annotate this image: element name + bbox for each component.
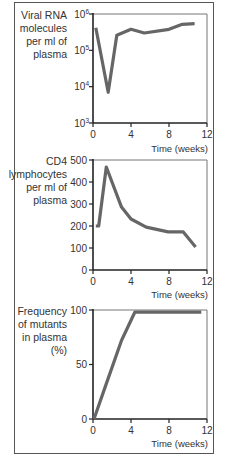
y-tick-label: 106 <box>74 8 89 20</box>
y-tick-label: 100 <box>70 305 87 316</box>
y-tick-label: 104 <box>74 80 89 92</box>
x-tick-label: 0 <box>90 425 96 436</box>
y-axis-label: per ml of <box>26 181 67 193</box>
x-tick-label: 4 <box>128 129 134 140</box>
x-tick-label: 8 <box>166 276 172 287</box>
x-tick-label: 4 <box>128 276 134 287</box>
y-axis-label: in plasma <box>22 331 67 343</box>
y-axis-label: plasma <box>33 48 67 60</box>
y-axis-label: (%) <box>51 344 67 356</box>
x-tick-label: 0 <box>90 276 96 287</box>
x-tick-label: 8 <box>166 129 172 140</box>
chart-panel-2: 010020030040050004812Time (weeks)CD4lymp… <box>9 155 213 301</box>
y-tick-label: 103 <box>74 117 89 129</box>
y-tick-label: 100 <box>70 243 87 254</box>
x-tick-label: 4 <box>128 425 134 436</box>
y-tick-label: 105 <box>74 44 89 56</box>
x-axis-label: Time (weeks) <box>151 289 208 300</box>
x-tick-label: 0 <box>90 129 96 140</box>
x-axis-label: Time (weeks) <box>151 143 208 154</box>
y-axis-label: molecules <box>20 22 67 34</box>
data-line <box>96 167 196 247</box>
y-axis-label: Frequency <box>17 305 67 317</box>
y-tick-label: 0 <box>81 414 87 425</box>
y-axis-label: Viral RNA <box>21 9 67 21</box>
y-tick-label: 50 <box>76 359 88 370</box>
y-tick-label: 0 <box>81 265 87 276</box>
y-axis-label: plasma <box>33 194 67 206</box>
x-tick-label: 12 <box>201 425 213 436</box>
data-line <box>94 312 201 419</box>
y-axis-label: lymphocytes <box>9 168 67 180</box>
y-tick-label: 400 <box>70 177 87 188</box>
x-axis-label: Time (weeks) <box>151 438 208 449</box>
y-tick-label: 200 <box>70 221 87 232</box>
y-tick-label: 500 <box>70 155 87 166</box>
y-tick-label: 300 <box>70 199 87 210</box>
x-tick-label: 12 <box>201 276 213 287</box>
chart-panel-1: 10310410510604812Time (weeks)Viral RNAmo… <box>20 8 213 155</box>
x-tick-label: 12 <box>201 129 213 140</box>
chart-panel-3: 05010004812Time (weeks)Frequencyof mutan… <box>17 305 213 450</box>
chart-panels: 10310410510604812Time (weeks)Viral RNAmo… <box>0 0 230 471</box>
x-tick-label: 8 <box>166 425 172 436</box>
data-line <box>96 24 195 93</box>
y-axis-label: of mutants <box>18 318 67 330</box>
y-axis-label: per ml of <box>26 35 67 47</box>
y-axis-label: CD4 <box>46 155 67 167</box>
